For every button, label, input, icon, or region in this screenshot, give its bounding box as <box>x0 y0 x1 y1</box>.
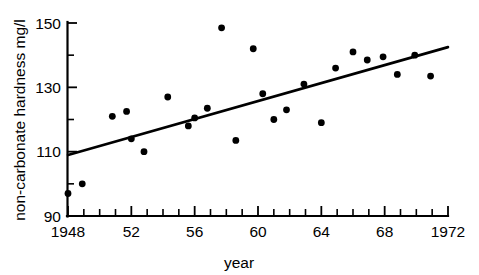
x-tick-label-1960: 60 <box>249 223 267 240</box>
data-point-3 <box>123 108 130 115</box>
x-axis-tick-labels: 194852566064681972 <box>51 223 465 240</box>
x-tick-label-1972: 1972 <box>431 223 465 240</box>
data-point-15 <box>283 106 290 113</box>
x-tick-label-1964: 64 <box>313 223 331 240</box>
y-axis-tick-labels: 90110130150 <box>35 15 61 225</box>
y-tick-label-130: 130 <box>35 79 61 96</box>
trend-line <box>68 47 448 155</box>
plot-axes <box>67 22 448 217</box>
data-point-18 <box>332 65 339 72</box>
data-point-19 <box>350 49 357 56</box>
x-axis-major-ticks <box>68 206 448 216</box>
y-tick-label-110: 110 <box>36 143 61 160</box>
x-tick-label-1956: 56 <box>186 223 203 240</box>
x-axis-title: year <box>224 254 254 271</box>
chart-canvas: 90110130150 194852566064681972 year non-… <box>0 0 479 275</box>
data-point-series <box>65 24 434 196</box>
data-point-1 <box>79 180 86 187</box>
data-point-12 <box>250 45 257 52</box>
data-point-10 <box>218 24 225 31</box>
data-point-8 <box>191 114 198 121</box>
data-point-0 <box>65 190 72 197</box>
data-point-9 <box>204 105 211 112</box>
data-point-13 <box>259 90 266 97</box>
data-point-5 <box>141 148 148 155</box>
data-point-14 <box>270 116 277 123</box>
data-point-2 <box>109 113 116 120</box>
y-axis-minor-ticks <box>68 55 74 184</box>
data-point-11 <box>232 137 239 144</box>
data-point-22 <box>394 71 401 78</box>
data-point-7 <box>185 123 192 130</box>
data-point-17 <box>318 119 325 126</box>
data-point-20 <box>364 57 371 64</box>
data-point-4 <box>128 135 135 142</box>
data-point-23 <box>411 52 418 59</box>
y-axis-title: non-carbonate hardness mg/l <box>11 19 28 221</box>
x-tick-label-1952: 52 <box>123 223 140 240</box>
data-point-24 <box>427 73 434 80</box>
data-point-16 <box>301 81 308 88</box>
data-point-21 <box>380 53 387 60</box>
y-tick-label-150: 150 <box>35 15 61 32</box>
x-tick-label-1968: 68 <box>376 223 393 240</box>
data-point-6 <box>164 94 171 101</box>
x-tick-label-1948: 1948 <box>51 223 85 240</box>
scatter-chart-figure: 90110130150 194852566064681972 year non-… <box>0 0 479 275</box>
y-tick-label-90: 90 <box>44 208 62 225</box>
